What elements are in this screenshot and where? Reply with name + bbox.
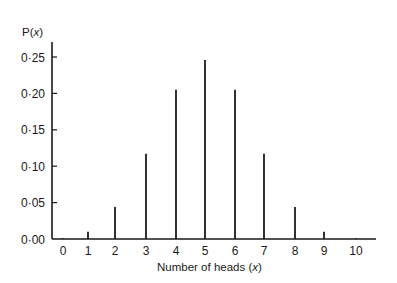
binomial-chart: 0·000·050·100·150·200·25 012345678910 P(… <box>0 0 397 283</box>
x-tick-label: 0 <box>60 244 67 258</box>
x-tick-label: 1 <box>85 244 92 258</box>
y-tick-label: 0·00 <box>21 233 45 247</box>
y-axis: 0·000·050·100·150·200·25 <box>21 42 57 247</box>
x-tick-label: 5 <box>202 244 209 258</box>
x-tick-label: 3 <box>143 244 150 258</box>
x-tick-label: 4 <box>173 244 180 258</box>
x-tick-label: 9 <box>321 244 328 258</box>
x-tick-label: 2 <box>112 244 119 258</box>
y-tick-label: 0·15 <box>21 123 45 137</box>
y-tick-label: 0·05 <box>21 196 45 210</box>
x-tick-label: 10 <box>349 244 363 258</box>
x-tick-label: 8 <box>292 244 299 258</box>
y-tick-label: 0·25 <box>21 51 45 65</box>
bars <box>63 60 356 239</box>
y-tick-label: 0·10 <box>21 160 45 174</box>
x-axis: 012345678910 <box>52 239 376 258</box>
x-axis-title: Number of heads (x) <box>157 261 262 273</box>
x-tick-label: 6 <box>232 244 239 258</box>
y-tick-label: 0·20 <box>21 87 45 101</box>
x-tick-label: 7 <box>261 244 268 258</box>
y-axis-title: P(x) <box>22 26 43 38</box>
